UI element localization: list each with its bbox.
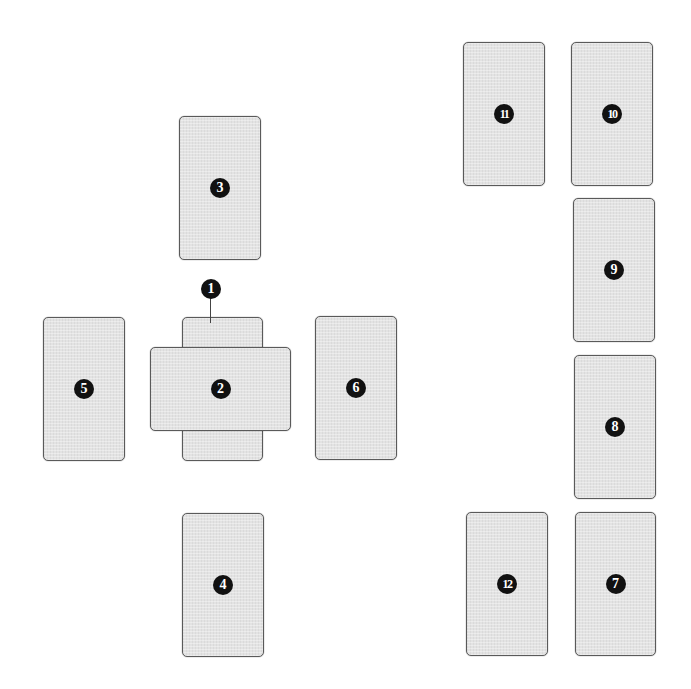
callout-badge-card-1: 1 [201, 279, 221, 299]
card-position-3: 3 [179, 116, 261, 260]
card-position-10: 10 [571, 42, 653, 186]
card-position-11: 11 [463, 42, 545, 186]
card-position-7: 7 [575, 512, 656, 656]
position-number-badge: 3 [210, 178, 230, 198]
position-number-badge: 2 [211, 379, 231, 399]
position-number-badge: 7 [606, 574, 626, 594]
card-position-4: 4 [182, 513, 264, 657]
position-number-badge: 10 [602, 104, 622, 124]
card-position-2: 2 [150, 347, 291, 431]
position-number-badge: 4 [213, 575, 233, 595]
card-position-6: 6 [315, 316, 397, 460]
position-number-badge: 8 [605, 417, 625, 437]
card-position-8: 8 [574, 355, 656, 499]
callout-leader-line [210, 298, 211, 323]
position-number-badge: 5 [74, 379, 94, 399]
card-position-5: 5 [43, 317, 125, 461]
position-number-badge: 11 [494, 104, 514, 124]
card-position-9: 9 [573, 198, 655, 342]
position-number-badge: 9 [604, 260, 624, 280]
card-position-12: 12 [466, 512, 548, 656]
position-number-badge: 12 [497, 574, 517, 594]
position-number-badge: 6 [346, 378, 366, 398]
